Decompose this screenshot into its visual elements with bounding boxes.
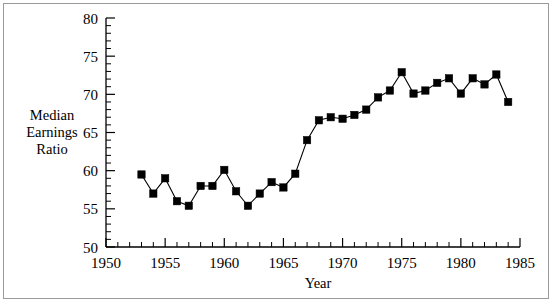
x-axis: 19501955196019651970197519801985 bbox=[91, 238, 535, 271]
data-point-marker bbox=[493, 71, 500, 78]
data-series-markers bbox=[138, 69, 512, 210]
x-axis-title: Year bbox=[305, 275, 332, 291]
y-tick-label: 60 bbox=[83, 163, 98, 179]
x-axis-tick-labels: 19501955196019651970197519801985 bbox=[91, 255, 535, 271]
data-point-marker bbox=[292, 170, 299, 177]
y-tick-label: 75 bbox=[83, 49, 98, 65]
data-point-marker bbox=[161, 175, 168, 182]
x-axis-major-ticks bbox=[106, 238, 520, 247]
data-point-marker bbox=[386, 87, 393, 94]
data-point-marker bbox=[268, 178, 275, 185]
data-point-marker bbox=[457, 90, 464, 97]
y-axis: 50556065707580 bbox=[83, 11, 115, 256]
data-series-line bbox=[141, 72, 508, 206]
data-point-marker bbox=[173, 198, 180, 205]
y-axis-major-ticks bbox=[106, 18, 115, 247]
data-point-marker bbox=[232, 188, 239, 195]
data-point-marker bbox=[150, 190, 157, 197]
x-tick-label: 1950 bbox=[91, 255, 121, 271]
data-point-marker bbox=[209, 182, 216, 189]
data-point-marker bbox=[138, 171, 145, 178]
y-tick-label: 55 bbox=[83, 201, 98, 217]
x-tick-label: 1985 bbox=[505, 255, 535, 271]
data-point-marker bbox=[481, 81, 488, 88]
data-point-marker bbox=[363, 106, 370, 113]
chart-container: 50556065707580 1950195519601965197019751… bbox=[0, 0, 555, 305]
data-point-marker bbox=[351, 111, 358, 118]
data-point-marker bbox=[185, 202, 192, 209]
data-point-marker bbox=[504, 98, 511, 105]
data-point-marker bbox=[327, 114, 334, 121]
data-point-marker bbox=[303, 136, 310, 143]
data-point-marker bbox=[280, 184, 287, 191]
x-tick-label: 1965 bbox=[268, 255, 298, 271]
x-tick-label: 1980 bbox=[446, 255, 476, 271]
data-point-marker bbox=[197, 182, 204, 189]
data-point-marker bbox=[469, 75, 476, 82]
x-axis-minor-ticks bbox=[118, 242, 508, 247]
y-axis-tick-labels: 50556065707580 bbox=[83, 11, 98, 256]
data-point-marker bbox=[422, 87, 429, 94]
data-point-marker bbox=[221, 166, 228, 173]
data-point-marker bbox=[410, 90, 417, 97]
x-tick-label: 1955 bbox=[150, 255, 180, 271]
data-point-marker bbox=[398, 69, 405, 76]
y-tick-label: 65 bbox=[83, 125, 98, 141]
y-tick-label: 80 bbox=[83, 11, 98, 27]
x-tick-label: 1960 bbox=[209, 255, 239, 271]
data-point-marker bbox=[256, 190, 263, 197]
y-axis-title-line1: Median bbox=[30, 107, 75, 123]
data-point-marker bbox=[445, 75, 452, 82]
x-tick-label: 1970 bbox=[328, 255, 358, 271]
y-tick-label: 70 bbox=[83, 87, 98, 103]
data-point-marker bbox=[339, 115, 346, 122]
y-tick-label: 50 bbox=[83, 240, 98, 256]
data-point-marker bbox=[434, 79, 441, 86]
median-earnings-ratio-line-chart: 50556065707580 1950195519601965197019751… bbox=[0, 0, 555, 305]
y-axis-title-line2: Earnings bbox=[26, 124, 78, 140]
data-point-marker bbox=[374, 94, 381, 101]
data-point-marker bbox=[244, 202, 251, 209]
x-tick-label: 1975 bbox=[387, 255, 417, 271]
data-point-marker bbox=[315, 117, 322, 124]
y-axis-title-line3: Ratio bbox=[36, 141, 67, 157]
